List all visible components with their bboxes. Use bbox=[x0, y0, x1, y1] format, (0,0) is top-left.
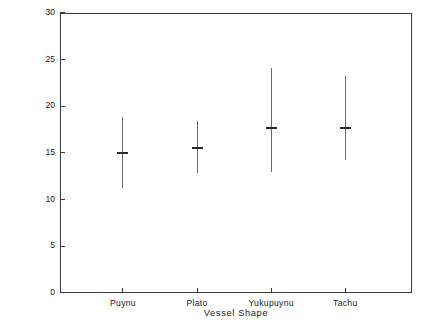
y-tick-label: 0 bbox=[34, 287, 55, 297]
y-tick-mark bbox=[60, 59, 65, 60]
figure: Greatest Diameter of Vessel (in cm) 0510… bbox=[0, 0, 423, 335]
x-tick-mark bbox=[197, 288, 198, 293]
x-axis-title: Vessel Shape bbox=[60, 307, 412, 318]
y-tick-label: 15 bbox=[34, 147, 55, 157]
y-tick-mark bbox=[60, 106, 65, 107]
error-bar-whisker bbox=[271, 68, 272, 172]
y-tick-mark bbox=[60, 199, 65, 200]
x-tick-mark bbox=[271, 288, 272, 293]
y-tick-label: 25 bbox=[34, 54, 55, 64]
mean-marker bbox=[117, 152, 128, 154]
y-tick-mark bbox=[60, 152, 65, 153]
error-bar-whisker bbox=[345, 76, 346, 159]
y-axis-title: Greatest Diameter of Vessel (in cm) bbox=[0, 0, 1, 95]
y-tick-label: 10 bbox=[34, 194, 55, 204]
plot-area bbox=[60, 13, 412, 293]
y-tick-label: 5 bbox=[34, 240, 55, 250]
y-tick-mark bbox=[60, 12, 65, 13]
x-tick-mark bbox=[122, 288, 123, 293]
mean-marker bbox=[266, 127, 277, 129]
y-tick-mark bbox=[60, 246, 65, 247]
y-tick-label: 20 bbox=[34, 100, 55, 110]
y-tick-label: 30 bbox=[34, 7, 55, 17]
mean-marker bbox=[192, 147, 203, 149]
y-tick-mark bbox=[60, 292, 65, 293]
x-tick-mark bbox=[345, 288, 346, 293]
mean-marker bbox=[340, 127, 351, 129]
